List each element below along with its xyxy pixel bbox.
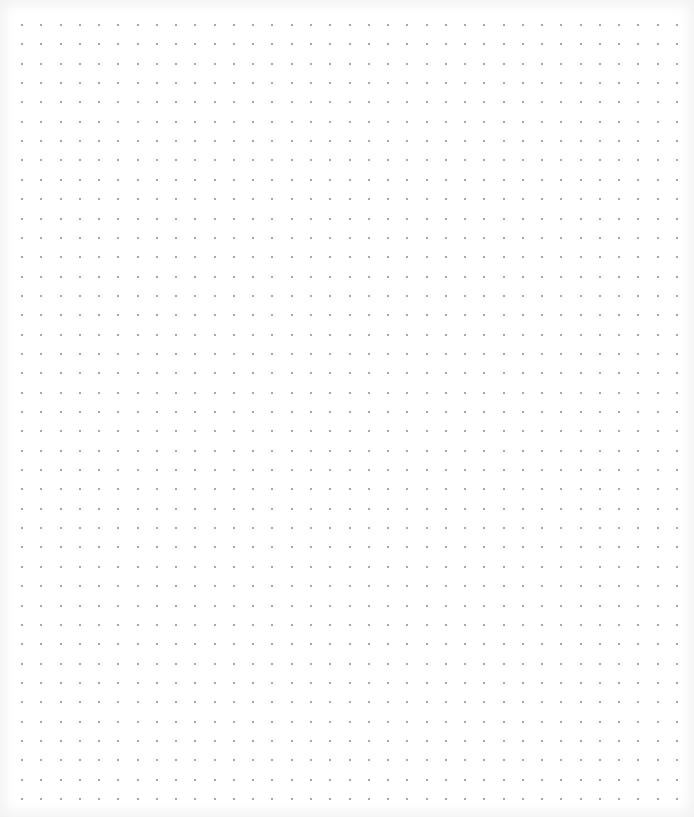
grid-dot bbox=[252, 140, 254, 142]
grid-dot bbox=[233, 411, 235, 413]
grid-dot bbox=[618, 159, 620, 161]
grid-dot bbox=[580, 121, 582, 123]
grid-dot bbox=[329, 527, 331, 529]
grid-dot bbox=[214, 779, 216, 781]
grid-dot bbox=[40, 546, 42, 548]
grid-dot bbox=[560, 82, 562, 84]
grid-dot bbox=[310, 392, 312, 394]
grid-dot bbox=[98, 740, 100, 742]
grid-dot bbox=[483, 140, 485, 142]
grid-dot bbox=[252, 566, 254, 568]
grid-dot bbox=[503, 43, 505, 45]
grid-dot bbox=[368, 779, 370, 781]
grid-dot bbox=[503, 740, 505, 742]
grid-dot bbox=[175, 392, 177, 394]
grid-dot bbox=[637, 276, 639, 278]
grid-dot bbox=[426, 663, 428, 665]
grid-dot bbox=[637, 527, 639, 529]
grid-dot bbox=[271, 198, 273, 200]
grid-dot bbox=[252, 721, 254, 723]
grid-dot bbox=[387, 392, 389, 394]
grid-dot bbox=[79, 779, 81, 781]
grid-dot bbox=[464, 663, 466, 665]
grid-dot bbox=[522, 682, 524, 684]
grid-dot bbox=[503, 179, 505, 181]
grid-dot bbox=[40, 779, 42, 781]
grid-dot bbox=[560, 24, 562, 26]
grid-dot bbox=[599, 682, 601, 684]
grid-dot bbox=[137, 392, 139, 394]
grid-dot bbox=[599, 392, 601, 394]
grid-dot bbox=[464, 334, 466, 336]
grid-dot bbox=[541, 759, 543, 761]
grid-dot bbox=[291, 198, 293, 200]
grid-dot bbox=[618, 469, 620, 471]
grid-dot bbox=[676, 508, 678, 510]
grid-dot bbox=[676, 179, 678, 181]
grid-dot bbox=[60, 759, 62, 761]
grid-dot bbox=[291, 643, 293, 645]
grid-dot bbox=[252, 82, 254, 84]
grid-dot bbox=[599, 159, 601, 161]
grid-dot bbox=[580, 353, 582, 355]
grid-dot bbox=[233, 82, 235, 84]
grid-dot bbox=[79, 314, 81, 316]
grid-dot bbox=[503, 605, 505, 607]
grid-dot bbox=[406, 740, 408, 742]
grid-dot bbox=[406, 82, 408, 84]
grid-dot bbox=[368, 663, 370, 665]
grid-dot bbox=[349, 488, 351, 490]
grid-dot bbox=[406, 682, 408, 684]
grid-dot bbox=[464, 43, 466, 45]
grid-dot bbox=[406, 63, 408, 65]
grid-dot bbox=[503, 682, 505, 684]
grid-dot bbox=[329, 256, 331, 258]
grid-dot bbox=[541, 101, 543, 103]
grid-dot bbox=[599, 276, 601, 278]
grid-dot bbox=[271, 256, 273, 258]
grid-dot bbox=[79, 353, 81, 355]
grid-dot bbox=[156, 605, 158, 607]
grid-dot bbox=[156, 682, 158, 684]
grid-dot bbox=[541, 198, 543, 200]
grid-dot bbox=[464, 605, 466, 607]
grid-dot bbox=[329, 411, 331, 413]
grid-dot bbox=[117, 682, 119, 684]
grid-dot bbox=[98, 276, 100, 278]
grid-dot bbox=[98, 469, 100, 471]
grid-dot bbox=[21, 353, 23, 355]
grid-dot bbox=[426, 469, 428, 471]
grid-dot bbox=[657, 701, 659, 703]
grid-dot bbox=[541, 546, 543, 548]
grid-dot bbox=[426, 218, 428, 220]
grid-dot bbox=[137, 101, 139, 103]
grid-dot bbox=[406, 237, 408, 239]
grid-dot bbox=[79, 256, 81, 258]
grid-dot bbox=[560, 779, 562, 781]
grid-dot bbox=[252, 682, 254, 684]
grid-dot bbox=[271, 624, 273, 626]
grid-dot bbox=[503, 334, 505, 336]
grid-dot bbox=[329, 450, 331, 452]
grid-dot bbox=[618, 740, 620, 742]
grid-dot bbox=[310, 682, 312, 684]
grid-dot bbox=[503, 82, 505, 84]
grid-dot bbox=[406, 295, 408, 297]
grid-dot bbox=[522, 488, 524, 490]
grid-dot bbox=[445, 353, 447, 355]
grid-dot bbox=[329, 82, 331, 84]
grid-dot bbox=[618, 179, 620, 181]
grid-dot bbox=[483, 508, 485, 510]
grid-dot bbox=[368, 585, 370, 587]
grid-dot bbox=[40, 798, 42, 800]
grid-dot bbox=[387, 701, 389, 703]
grid-dot bbox=[214, 624, 216, 626]
grid-dot bbox=[618, 82, 620, 84]
grid-dot bbox=[503, 353, 505, 355]
grid-dot bbox=[175, 624, 177, 626]
grid-dot bbox=[503, 759, 505, 761]
grid-dot bbox=[137, 663, 139, 665]
grid-dot bbox=[464, 450, 466, 452]
grid-dot bbox=[214, 469, 216, 471]
grid-dot bbox=[117, 121, 119, 123]
